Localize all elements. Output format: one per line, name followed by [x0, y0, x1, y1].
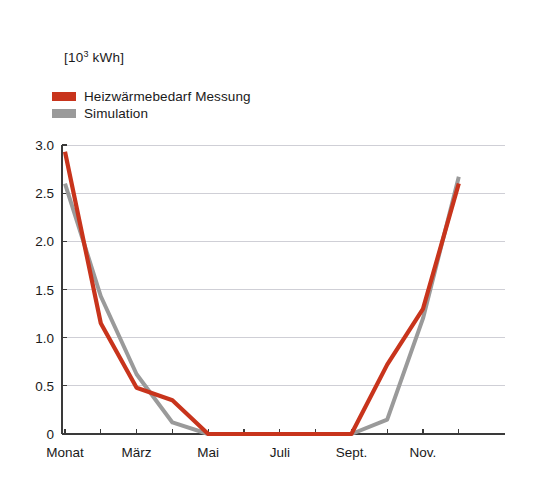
series-line-simulation — [65, 177, 459, 434]
y-tick-label: 3.0 — [20, 138, 54, 153]
heating-demand-line-chart: [103 kWh] Heizwärmebedarf Messung Simula… — [0, 0, 538, 487]
plot-area — [0, 0, 538, 487]
y-tick-label: 0 — [20, 427, 54, 442]
y-tick-label: 1.5 — [20, 282, 54, 297]
y-tick-label: 2.0 — [20, 234, 54, 249]
x-tick-label: Monat — [46, 445, 84, 460]
y-tick-label: 1.0 — [20, 330, 54, 345]
x-tick-label: Nov. — [410, 445, 437, 460]
y-tick-label: 0.5 — [20, 378, 54, 393]
x-tick-label: Sept. — [336, 445, 368, 460]
x-tick-label: Mai — [197, 445, 219, 460]
x-tick-label: Juli — [270, 445, 290, 460]
series-line-measurement — [65, 152, 459, 434]
x-tick-label: März — [122, 445, 152, 460]
y-tick-label: 2.5 — [20, 186, 54, 201]
